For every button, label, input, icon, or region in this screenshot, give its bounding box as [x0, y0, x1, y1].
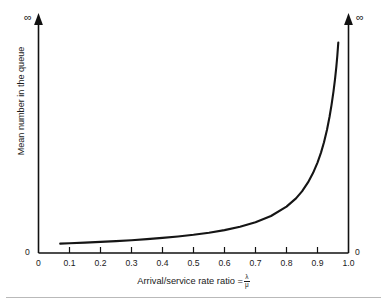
x-axis-title-text: Arrival/service rate ratio = [137, 276, 243, 286]
x-tick-label-0: 0 [36, 258, 41, 268]
queueing-chart-figure: ∞ ∞ 0 0 Mean number in the queue 0 0.1 0… [0, 0, 387, 308]
x-axis-ticks [70, 247, 318, 253]
queue-length-curve [60, 43, 338, 244]
x-tick-label-1-0: 1.0 [343, 258, 355, 268]
fraction-denominator: μ [244, 282, 250, 289]
y-axis-title: Mean number in the queue [16, 26, 26, 176]
x-tick-label-0-4: 0.4 [157, 258, 169, 268]
lambda-over-mu-fraction: λμ [244, 274, 250, 288]
x-tick-label-0-1: 0.1 [64, 258, 76, 268]
x-tick-label-0-3: 0.3 [126, 258, 138, 268]
y-axis-left-infinity-label: ∞ [24, 12, 32, 23]
x-axis-tick-labels: 0 0.1 0.2 0.3 0.4 0.5 0.6 0.7 0.8 0.9 1.… [0, 258, 387, 272]
y-axis-left [34, 13, 43, 253]
x-tick-label-0-9: 0.9 [312, 258, 324, 268]
x-axis-title: Arrival/service rate ratio =λμ [0, 274, 387, 288]
x-tick-label-0-7: 0.7 [250, 258, 262, 268]
x-tick-label-0-2: 0.2 [95, 258, 107, 268]
y-axis-left-zero-label: 0 [25, 248, 30, 257]
x-tick-label-0-5: 0.5 [188, 258, 200, 268]
y-axis-right [344, 13, 353, 253]
x-tick-label-0-6: 0.6 [219, 258, 231, 268]
y-axis-right-infinity-label: ∞ [356, 12, 364, 23]
y-axis-right-zero-label: 0 [355, 248, 360, 257]
x-tick-label-0-8: 0.8 [281, 258, 293, 268]
